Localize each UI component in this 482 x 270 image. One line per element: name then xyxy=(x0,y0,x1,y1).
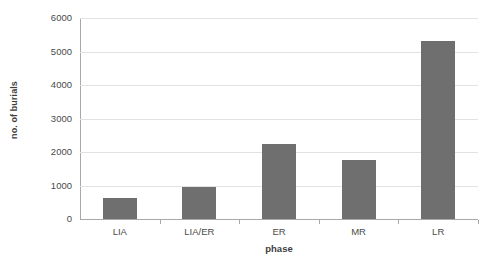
y-tick-label: 2000 xyxy=(51,147,72,157)
bar-slot xyxy=(80,18,160,219)
x-tick-label: LIA xyxy=(80,226,160,237)
y-tick-label: 5000 xyxy=(51,47,72,57)
y-tick-label: 0 xyxy=(67,214,72,224)
bar-slot xyxy=(398,18,478,219)
x-axis-line xyxy=(80,219,478,220)
bar-slot xyxy=(319,18,399,219)
y-axis-title: no. of burials xyxy=(4,0,24,219)
x-axis-title: phase xyxy=(80,243,478,254)
bar-slot xyxy=(239,18,319,219)
bar-lr xyxy=(421,41,455,219)
x-tick-mark xyxy=(319,220,320,224)
bar-slot xyxy=(160,18,240,219)
bar-lia-er xyxy=(182,187,216,219)
x-tick-label: MR xyxy=(319,226,399,237)
x-tick-label: LIA/ER xyxy=(160,226,240,237)
bar-lia xyxy=(103,198,137,219)
y-tick-label: 6000 xyxy=(51,13,72,23)
y-tick-label: 3000 xyxy=(51,114,72,124)
y-axis-title-text: no. of burials xyxy=(9,81,19,139)
bar-chart: no. of burials 0100020003000400050006000… xyxy=(0,0,482,270)
x-tick-mark xyxy=(478,220,479,224)
plot-area-bars xyxy=(80,18,478,219)
x-tick-mark xyxy=(398,220,399,224)
bar-er xyxy=(262,144,296,219)
x-tick-label: LR xyxy=(398,226,478,237)
y-tick-label: 1000 xyxy=(51,181,72,191)
x-tick-label: ER xyxy=(239,226,319,237)
x-axis-tick-labels: LIALIA/ERERMRLR xyxy=(80,226,478,240)
x-tick-mark xyxy=(239,220,240,224)
bar-mr xyxy=(342,160,376,219)
x-tick-mark xyxy=(160,220,161,224)
y-tick-label: 4000 xyxy=(51,80,72,90)
y-axis-tick-labels: 0100020003000400050006000 xyxy=(26,0,72,230)
